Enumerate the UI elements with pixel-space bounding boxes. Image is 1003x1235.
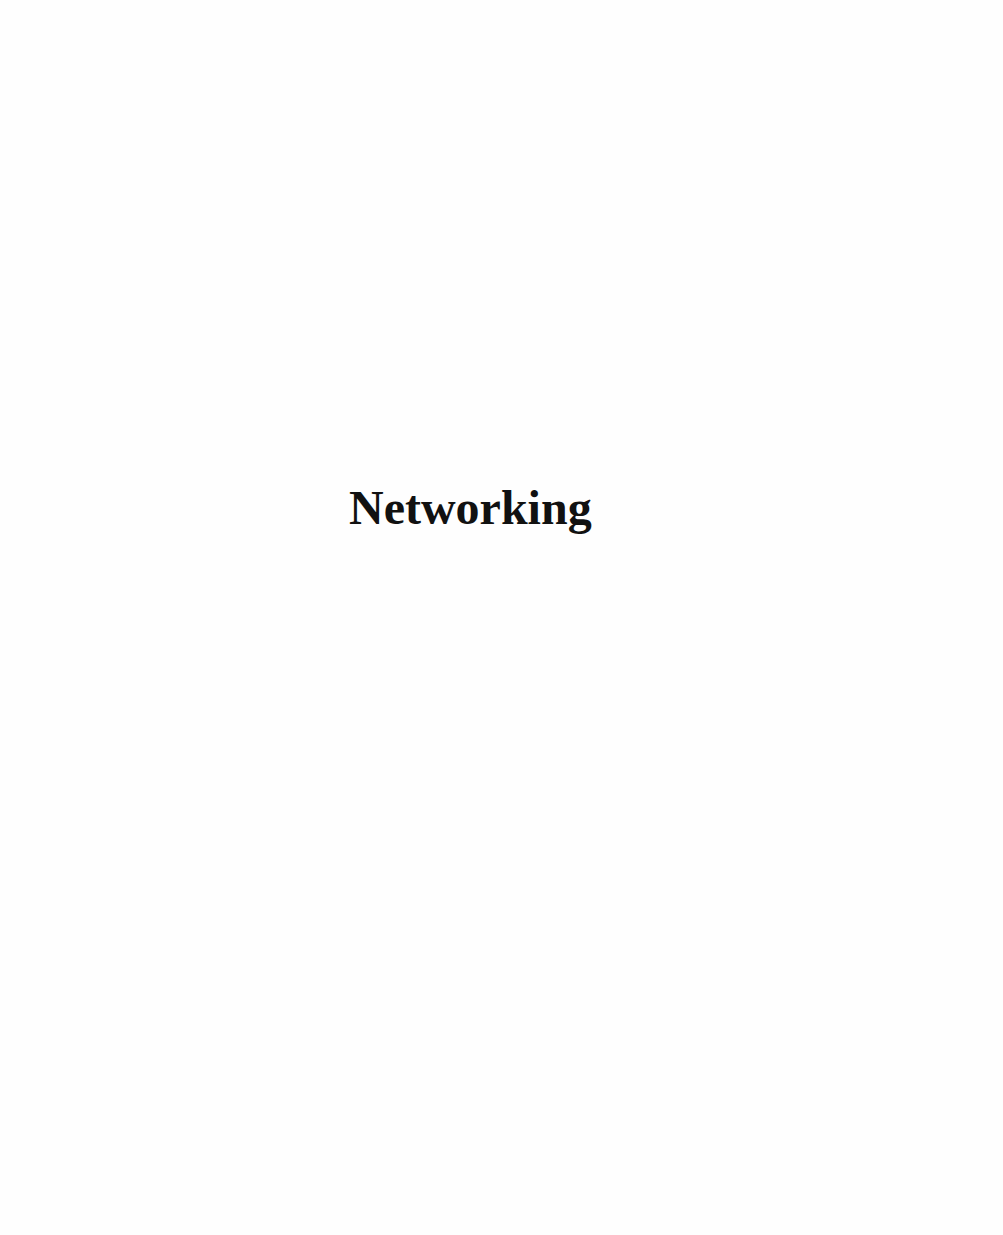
- page-title: Networking: [349, 478, 592, 538]
- document-page: Networking: [0, 0, 1003, 1235]
